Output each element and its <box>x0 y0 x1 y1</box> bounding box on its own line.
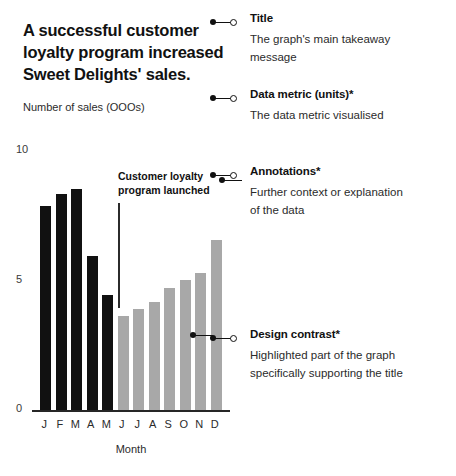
x-axis-tick-april: A <box>84 418 98 430</box>
callout-marker-icon <box>210 18 238 26</box>
marker-ring-icon <box>230 95 237 102</box>
marker-line-icon <box>215 22 231 24</box>
bar-march <box>71 189 82 410</box>
bar-january <box>40 206 51 410</box>
x-axis-tick-january: J <box>37 418 51 430</box>
bar-february <box>56 194 67 410</box>
x-axis-tick-july: J <box>130 418 144 430</box>
x-axis-line <box>32 410 230 412</box>
bar-october <box>180 280 191 410</box>
x-axis-tick-november: N <box>192 418 206 430</box>
marker-ring-icon <box>230 335 237 342</box>
graph-panel: A successful customer loyalty program in… <box>0 0 240 476</box>
callout-title-body: The graph's main takeaway message <box>250 31 450 67</box>
x-axis-title: Month <box>38 443 224 455</box>
chart-annotation-text: Customer loyalty program launched <box>118 170 222 198</box>
marker-ring-icon <box>230 19 237 26</box>
x-axis-tick-labels: JFMAMJJASOND <box>38 418 224 434</box>
marker-ring-icon <box>230 172 237 179</box>
callout-design-contrast-body: Highlighted part of the graph specifical… <box>250 347 450 383</box>
x-axis-tick-may: M <box>99 418 113 430</box>
y-axis-tick-5: 5 <box>16 273 22 285</box>
callout-data-metric-body: The data metric visualised <box>250 107 450 125</box>
x-axis-tick-march: M <box>68 418 82 430</box>
bar-september <box>164 288 175 410</box>
x-axis-tick-october: O <box>177 418 191 430</box>
callout-annotations-heading: Annotations* <box>250 165 320 177</box>
page-title: A successful customer loyalty program in… <box>23 20 228 86</box>
bar-april <box>87 256 98 410</box>
marker-line-icon <box>215 338 231 340</box>
callout-title-heading: Title <box>250 12 273 24</box>
callout-list: Title The graph's main takeaway message … <box>208 0 456 476</box>
bar-series <box>38 170 224 410</box>
bar-june <box>118 316 129 410</box>
marker-line-icon <box>215 98 231 100</box>
callout-design-contrast-heading: Design contrast* <box>250 328 340 340</box>
x-axis-tick-september: S <box>161 418 175 430</box>
y-axis-tick-0: 0 <box>16 402 22 414</box>
callout-data-metric-heading: Data metric (units)* <box>250 88 353 100</box>
bar-august <box>149 302 160 410</box>
x-axis-tick-june: J <box>115 418 129 430</box>
bar-july <box>133 309 144 410</box>
chart-annotation-leader-line <box>118 203 120 308</box>
bar-november <box>195 273 206 410</box>
callout-marker-icon <box>210 94 238 102</box>
marker-line-icon <box>215 175 231 177</box>
x-axis-tick-august: A <box>146 418 160 430</box>
y-axis-metric-label: Number of sales (OOOs) <box>23 100 145 114</box>
y-axis-tick-10: 10 <box>16 143 28 155</box>
callout-marker-icon <box>210 171 238 179</box>
x-axis-tick-february: F <box>53 418 67 430</box>
bar-may <box>102 295 113 410</box>
callout-annotations-body: Further context or explanation of the da… <box>250 184 450 220</box>
callout-marker-icon <box>210 334 238 342</box>
